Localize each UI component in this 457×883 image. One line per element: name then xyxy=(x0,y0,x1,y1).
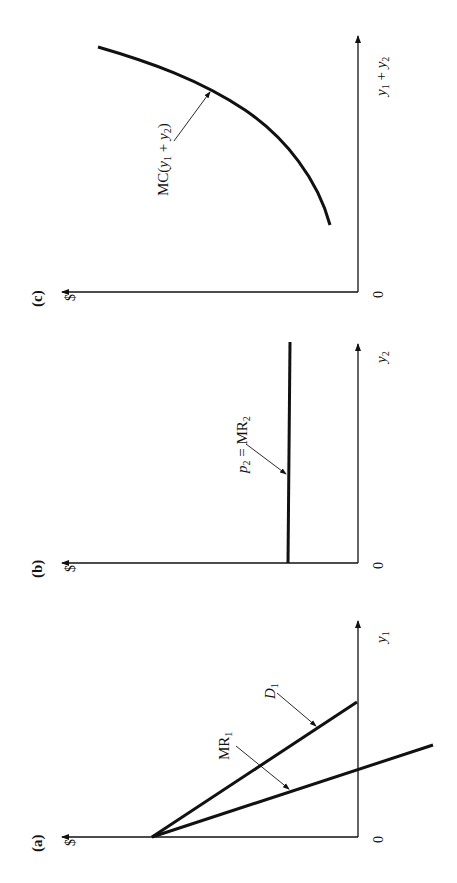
marginal-revenue-curve-mr1 xyxy=(152,745,433,837)
origin-label-c: 0 xyxy=(371,291,386,298)
three-panel-diagram: (a) $ 0 y1 D1 MR1 (b) $ 0 xyxy=(0,0,457,883)
d1-label: D1 xyxy=(262,683,280,700)
price-axis-label-b: $ xyxy=(63,565,78,572)
panel-label-c: (c) xyxy=(29,290,46,307)
panel-label-a: (a) xyxy=(29,835,46,853)
quantity-axis-label-c: y1 + y2 xyxy=(373,57,391,98)
quantity-axis-label-b: y2 xyxy=(373,351,391,365)
mc-label: MC(y1 + y2) xyxy=(155,123,173,196)
quantity-axis-label-a: y1 xyxy=(373,631,391,645)
d1-pointer-arrow xyxy=(277,693,316,726)
panel-label-b: (b) xyxy=(29,560,46,578)
origin-label-a: 0 xyxy=(371,836,386,843)
panel-a: (a) $ 0 y1 D1 MR1 xyxy=(29,621,433,852)
p2-pointer-arrow xyxy=(246,444,286,474)
mc-pointer-arrow xyxy=(174,92,210,141)
marginal-cost-curve xyxy=(98,47,330,225)
panel-b: (b) $ 0 y2 p2 = MR2 xyxy=(29,342,391,578)
mr1-label: MR1 xyxy=(216,732,234,760)
price-axis-label-a: $ xyxy=(63,839,78,846)
panel-c: (c) $ 0 y1 + y2 MC(y1 + y2) xyxy=(29,36,391,307)
price-line-p2-mr2 xyxy=(288,342,290,563)
demand-curve-d1 xyxy=(152,702,357,837)
p2-mr2-label: p2 = MR2 xyxy=(234,416,252,474)
price-axis-label-c: $ xyxy=(63,294,78,301)
origin-label-b: 0 xyxy=(371,562,386,569)
